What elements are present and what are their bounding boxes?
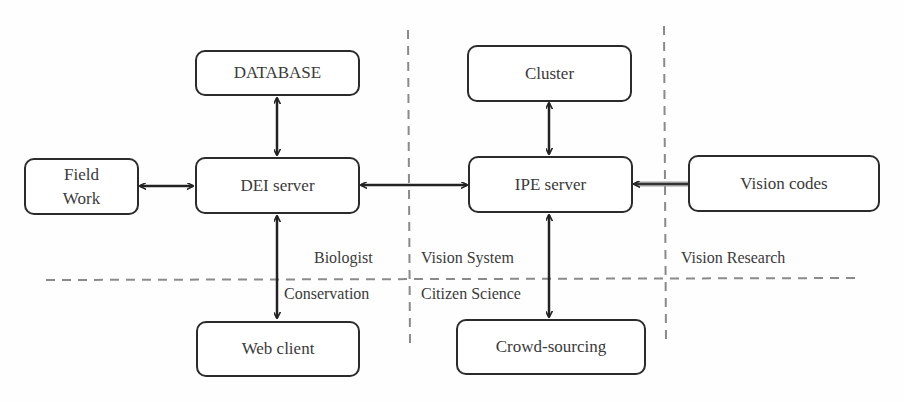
node-ipe-server: IPE server	[468, 156, 633, 213]
architecture-diagram: DATABASE Field Work DEI server Web clien…	[0, 0, 904, 402]
node-field-work: Field Work	[24, 158, 139, 215]
region-label-vision-system: Vision System	[421, 249, 514, 267]
node-web-client: Web client	[196, 321, 360, 377]
divider-vertical-left	[408, 30, 410, 345]
node-database: DATABASE	[195, 50, 360, 96]
region-label-biologist: Biologist	[314, 249, 373, 267]
region-label-citizen-science: Citizen Science	[421, 285, 521, 303]
node-vision-codes-label: Vision codes	[740, 172, 827, 196]
region-label-vision-research: Vision Research	[681, 249, 785, 267]
node-cluster: Cluster	[467, 45, 632, 102]
node-cluster-label: Cluster	[525, 62, 574, 86]
divider-horizontal	[46, 278, 860, 280]
node-crowd-sourcing-label: Crowd-sourcing	[496, 335, 606, 359]
node-web-client-label: Web client	[242, 337, 315, 361]
node-field-work-label: Field Work	[63, 163, 100, 211]
node-vision-codes: Vision codes	[688, 155, 880, 212]
node-dei-server-label: DEI server	[240, 174, 314, 198]
node-crowd-sourcing: Crowd-sourcing	[456, 319, 646, 375]
node-database-label: DATABASE	[234, 61, 321, 85]
node-dei-server: DEI server	[195, 157, 360, 214]
region-label-conservation: Conservation	[284, 285, 369, 303]
node-ipe-server-label: IPE server	[515, 173, 586, 197]
